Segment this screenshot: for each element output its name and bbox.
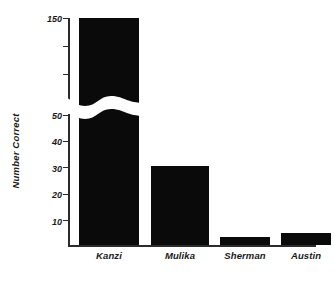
- bar-chart-figure: Number Correct 150 50 40 30 20 10: [0, 0, 334, 284]
- y-tick-label-50: 50: [28, 111, 62, 121]
- category-label-austin: Austin: [266, 250, 334, 261]
- bar-sherman[interactable]: [220, 237, 270, 245]
- x-axis-line: [68, 245, 316, 247]
- bar-kanzi[interactable]: [79, 18, 139, 245]
- x-axis-category-labels: Kanzi Mulika Sherman Austin: [68, 250, 316, 268]
- y-tick-label-10: 10: [28, 217, 62, 227]
- y-tick-label-20: 20: [28, 190, 62, 200]
- y-tick-label-30: 30: [28, 164, 62, 174]
- bars-layer: [68, 18, 316, 245]
- y-tick-label-150: 150: [28, 14, 62, 24]
- y-tick-label-40: 40: [28, 137, 62, 147]
- plot-area: [68, 18, 316, 246]
- category-label-kanzi: Kanzi: [69, 250, 149, 261]
- bar-austin[interactable]: [281, 233, 331, 245]
- y-axis-title: Number Correct: [10, 96, 26, 206]
- bar-mulika[interactable]: [151, 166, 209, 245]
